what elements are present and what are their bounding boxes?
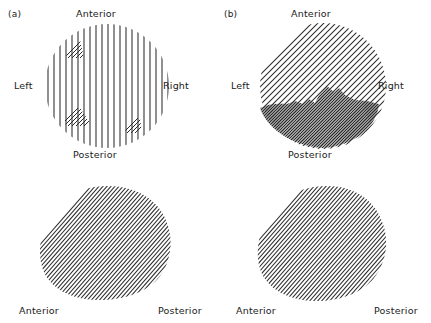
panel-c: Anterior Posterior — [0, 166, 215, 323]
panel-d-label-posterior: Posterior — [374, 305, 418, 316]
panel-b-tag: (b) — [224, 9, 237, 19]
panel-a-label-anterior: Anterior — [76, 8, 116, 19]
panel-d-label-anterior: Anterior — [236, 305, 276, 316]
panel-b-label-right: Right — [378, 80, 404, 91]
figure-root: (a) Anterior Left Right Posterior — [0, 0, 431, 323]
panel-d-graphic — [215, 166, 431, 323]
panel-a-label-right: Right — [163, 80, 189, 91]
panel-b: (b) Anterior Left Right Posterior — [215, 0, 431, 166]
panel-b-label-anterior: Anterior — [291, 8, 331, 19]
panel-b-label-left: Left — [231, 80, 250, 91]
panel-a-label-left: Left — [14, 80, 33, 91]
panel-a-tag: (a) — [8, 9, 21, 19]
panel-c-label-anterior: Anterior — [19, 305, 59, 316]
panel-d: Anterior Posterior — [215, 166, 431, 323]
panel-c-label-posterior: Posterior — [158, 305, 202, 316]
panel-a-vertical-hatch — [48, 0, 168, 166]
panel-a-label-posterior: Posterior — [73, 149, 117, 160]
panel-a: (a) Anterior Left Right Posterior — [0, 0, 215, 166]
panel-c-graphic — [0, 166, 215, 323]
panel-b-label-posterior: Posterior — [288, 149, 332, 160]
